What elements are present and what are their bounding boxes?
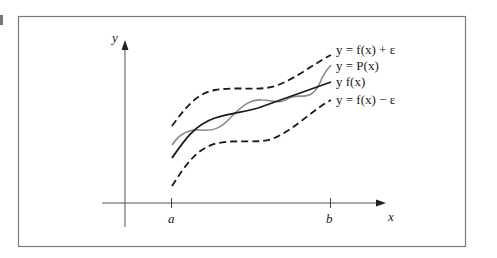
legend-function: y f(x) bbox=[336, 74, 365, 89]
y-axis-label: y bbox=[110, 30, 118, 45]
legend-upper-bound: y = f(x) + ε bbox=[336, 42, 396, 57]
approximation-diagram: y x a b y = f(x) + ε y = P(x) y f(x) y =… bbox=[0, 0, 497, 258]
y-axis-arrow-icon bbox=[122, 40, 129, 50]
legend-lower-bound: y = f(x) − ε bbox=[336, 92, 396, 107]
tick-label-b: b bbox=[326, 211, 333, 226]
figure-frame bbox=[19, 17, 466, 247]
x-axis-label: x bbox=[387, 209, 394, 224]
curve-function bbox=[172, 82, 331, 158]
legend-polynomial: y = P(x) bbox=[336, 58, 379, 73]
tick-label-a: a bbox=[168, 211, 175, 226]
curve-polynomial bbox=[172, 65, 331, 145]
curve-lower-bound bbox=[172, 100, 331, 186]
x-axis-arrow-icon bbox=[376, 200, 386, 207]
